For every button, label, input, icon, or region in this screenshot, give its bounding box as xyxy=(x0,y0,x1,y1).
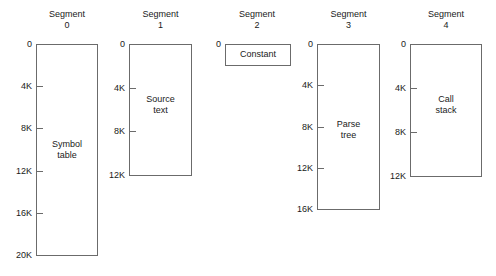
segment-1-tick-label-2: 8K xyxy=(95,127,125,136)
segment-3-title-word: Segment xyxy=(317,9,380,20)
segment-4-title: Segment4 xyxy=(410,9,482,31)
segment-0-tick-label-4: 16K xyxy=(2,209,32,218)
segment-0-tick-label-0: 0 xyxy=(2,40,32,49)
segment-4-tick-label-2: 8K xyxy=(376,128,406,137)
segment-2-tick-label-0: 0 xyxy=(191,40,221,49)
segment-1-title-number: 1 xyxy=(129,20,192,31)
segment-1-tick-label-1: 4K xyxy=(95,84,125,93)
segment-0-tick-1 xyxy=(36,86,43,87)
segment-1-tick-label-3: 12K xyxy=(95,171,125,180)
segment-4-tick-2 xyxy=(410,132,417,133)
segment-2-title-number: 2 xyxy=(222,20,292,31)
segment-3-tick-label-0: 0 xyxy=(283,40,313,49)
segment-1-tick-1 xyxy=(129,88,136,89)
segment-0-content-label: Symboltable xyxy=(36,139,98,161)
segment-3-tick-1 xyxy=(317,85,324,86)
segment-0-content-line1: Symbol xyxy=(36,139,98,150)
segment-2-title-word: Segment xyxy=(222,9,292,20)
segment-3-content-line2: tree xyxy=(317,130,380,141)
segment-3-content-label: Parsetree xyxy=(317,119,380,141)
segment-0-title: Segment0 xyxy=(36,9,98,31)
segment-2-title: Segment2 xyxy=(222,9,292,31)
segment-3-tick-3 xyxy=(317,168,324,169)
segment-3-content-line1: Parse xyxy=(317,119,380,130)
segment-0-tick-4 xyxy=(36,213,43,214)
segment-3-tick-label-4: 16K xyxy=(283,205,313,214)
segment-3-tick-label-3: 12K xyxy=(283,164,313,173)
segment-1-title-word: Segment xyxy=(129,9,192,20)
segment-1-content-line1: Source xyxy=(129,94,192,105)
segment-0-tick-3 xyxy=(36,171,43,172)
segment-4-content-label: Callstack xyxy=(410,94,482,116)
segment-4-tick-1 xyxy=(410,88,417,89)
segment-3-tick-label-1: 4K xyxy=(283,81,313,90)
segment-1-content-label: Sourcetext xyxy=(129,94,192,116)
segment-1-tick-label-0: 0 xyxy=(95,40,125,49)
segment-0-title-number: 0 xyxy=(36,20,98,31)
segment-4-tick-label-1: 4K xyxy=(376,84,406,93)
segment-1-title: Segment1 xyxy=(129,9,192,31)
segment-0-title-word: Segment xyxy=(36,9,98,20)
segment-0-tick-label-2: 8K xyxy=(2,124,32,133)
segment-memory-diagram: Segment004K8K12K16K20KSymboltableSegment… xyxy=(0,0,496,276)
segment-0-content-line2: table xyxy=(36,150,98,161)
segment-3-tick-label-2: 8K xyxy=(283,123,313,132)
segment-1-tick-2 xyxy=(129,131,136,132)
segment-0-tick-label-1: 4K xyxy=(2,82,32,91)
segment-4-content-line2: stack xyxy=(410,105,482,116)
segment-1-content-line2: text xyxy=(129,105,192,116)
segment-0-tick-2 xyxy=(36,128,43,129)
segment-4-title-number: 4 xyxy=(410,20,482,31)
segment-4-content-line1: Call xyxy=(410,94,482,105)
segment-4-title-word: Segment xyxy=(410,9,482,20)
segment-3-title: Segment3 xyxy=(317,9,380,31)
segment-3-title-number: 3 xyxy=(317,20,380,31)
segment-4-tick-label-3: 12K xyxy=(376,172,406,181)
segment-4-tick-label-0: 0 xyxy=(376,40,406,49)
segment-2-content-line1: Constant xyxy=(225,49,291,60)
segment-0-tick-label-5: 20K xyxy=(2,251,32,260)
segment-0-tick-label-3: 12K xyxy=(2,167,32,176)
segment-2-content-label: Constant xyxy=(225,49,291,60)
